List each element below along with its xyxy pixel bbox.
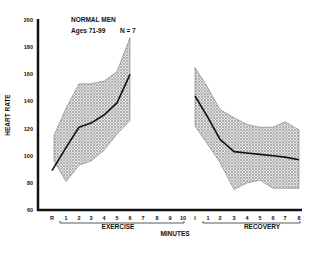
y-tick-label: 200 bbox=[24, 17, 33, 23]
x-tick-label: I bbox=[194, 215, 196, 221]
x-tick-label: 5 bbox=[115, 215, 118, 221]
range-band bbox=[54, 38, 130, 182]
y-tick-label: 140 bbox=[24, 98, 33, 104]
x-tick-label: 7 bbox=[283, 215, 286, 221]
x-tick-label: 6 bbox=[128, 215, 131, 221]
y-tick-labels: 6080100120140160180200 bbox=[24, 17, 33, 213]
y-tick-label: 180 bbox=[24, 44, 33, 50]
y-axis-label: HEART RATE bbox=[4, 94, 11, 136]
x-tick-label: 1 bbox=[206, 215, 209, 221]
x-tick-label: 7 bbox=[141, 215, 144, 221]
sample-size-annotation: N = 7 bbox=[120, 27, 136, 34]
y-tick-label: 80 bbox=[27, 180, 33, 186]
group-brackets: EXERCISERECOVERY bbox=[60, 221, 300, 230]
group-label: RECOVERY bbox=[244, 223, 281, 230]
chart-title: NORMAL MEN bbox=[71, 16, 116, 23]
x-tick-label: 8 bbox=[297, 215, 300, 221]
x-tick-label: 4 bbox=[102, 215, 106, 221]
x-tick-label: 5 bbox=[258, 215, 261, 221]
x-tick-label: 9 bbox=[168, 215, 171, 221]
x-tick-label: 8 bbox=[155, 215, 158, 221]
x-tick-label: 2 bbox=[77, 215, 80, 221]
x-tick-label: 3 bbox=[89, 215, 92, 221]
x-tick-label: 6 bbox=[271, 215, 274, 221]
y-tick-label: 160 bbox=[24, 71, 33, 77]
chart-subtitle: Ages 71-99 bbox=[71, 27, 106, 35]
x-tick-labels: R12345678910I12345678 bbox=[50, 215, 301, 221]
group-label: EXERCISE bbox=[102, 223, 136, 230]
heart-rate-chart: 6080100120140160180200 R12345678910I1234… bbox=[0, 0, 318, 253]
y-tick-label: 100 bbox=[24, 153, 33, 159]
x-tick-label: 4 bbox=[245, 215, 249, 221]
x-axis-label: MINUTES bbox=[160, 230, 190, 237]
x-tick-label: 3 bbox=[232, 215, 235, 221]
x-tick-label: 1 bbox=[64, 215, 67, 221]
range-bands bbox=[54, 38, 299, 190]
range-band bbox=[195, 68, 299, 190]
x-tick-label: 10 bbox=[180, 215, 186, 221]
x-tick-label: R bbox=[50, 215, 54, 221]
y-tick-label: 120 bbox=[24, 126, 33, 132]
x-tick-label: 2 bbox=[218, 215, 221, 221]
y-tick-label: 60 bbox=[27, 207, 33, 213]
